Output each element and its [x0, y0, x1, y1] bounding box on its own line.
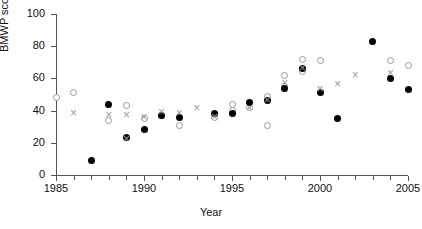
y-tick-label: 40 [11, 105, 45, 116]
data-point-cross [298, 64, 307, 73]
data-point-filled-circle [405, 86, 412, 93]
y-tick-label: 20 [11, 137, 45, 148]
x-tick [390, 176, 391, 180]
data-point-cross [245, 104, 254, 113]
x-tick-label: 2005 [388, 183, 422, 194]
x-tick [179, 176, 180, 180]
data-point-cross [175, 109, 184, 118]
x-tick [355, 176, 356, 180]
x-tick [197, 176, 198, 180]
data-point-cross [333, 80, 342, 89]
x-tick [373, 176, 374, 180]
data-point-cross [351, 71, 360, 80]
x-tick [214, 176, 215, 180]
data-point-cross [210, 113, 219, 122]
data-point-open-circle [405, 62, 412, 69]
x-tick [320, 176, 321, 181]
x-tick-label: 1990 [124, 183, 164, 194]
data-point-cross [140, 113, 149, 122]
x-tick [74, 176, 75, 180]
data-point-cross [104, 111, 113, 120]
y-axis-title: BMWP score [0, 0, 10, 52]
data-point-cross [263, 96, 272, 105]
x-tick [162, 176, 163, 180]
data-point-cross [316, 85, 325, 94]
x-tick [144, 176, 145, 181]
y-tick-label: 60 [11, 72, 45, 83]
scatter-chart: BMWP score Year 020406080100 19851990199… [0, 0, 422, 229]
data-point-cross [69, 109, 78, 118]
data-point-cross [386, 69, 395, 78]
data-point-open-circle [176, 122, 183, 129]
plot-area [56, 14, 408, 175]
x-tick [285, 176, 286, 180]
x-tick [91, 176, 92, 180]
y-tick-label: 80 [11, 40, 45, 51]
data-point-cross [280, 79, 289, 88]
data-point-open-circle [53, 94, 60, 101]
data-point-filled-circle [141, 126, 148, 133]
x-tick [302, 176, 303, 180]
data-point-open-circle [229, 101, 236, 108]
data-point-cross [192, 104, 201, 113]
data-point-open-circle [317, 57, 324, 64]
x-tick-label: 2000 [300, 183, 340, 194]
x-tick [250, 176, 251, 180]
data-point-filled-circle [105, 101, 112, 108]
x-tick-label: 1995 [212, 183, 252, 194]
data-point-cross [122, 111, 131, 120]
x-tick [109, 176, 110, 180]
x-tick [267, 176, 268, 180]
data-point-open-circle [264, 122, 271, 129]
data-point-cross [122, 135, 131, 144]
x-tick [126, 176, 127, 180]
y-tick-label: 100 [11, 8, 45, 19]
data-point-cross [157, 108, 166, 117]
x-tick [338, 176, 339, 180]
x-axis-title: Year [0, 206, 422, 218]
x-tick-label: 1985 [36, 183, 76, 194]
x-tick [232, 176, 233, 181]
x-tick [408, 176, 409, 181]
data-point-filled-circle [88, 157, 95, 164]
x-tick [56, 176, 57, 181]
data-point-filled-circle [229, 110, 236, 117]
y-tick-label: 0 [11, 169, 45, 180]
